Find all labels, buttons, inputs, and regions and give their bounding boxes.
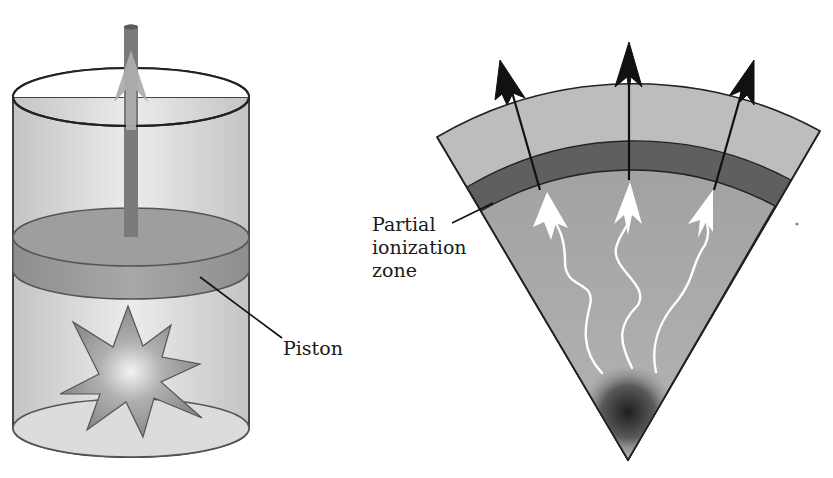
zone-label-line-1: Partial <box>372 213 467 236</box>
stellar-wedge-illustration <box>437 42 820 460</box>
outgoing-arrowhead-middle-icon <box>615 42 642 90</box>
zone-label-line-2: ionization <box>372 236 467 259</box>
piston-label: Piston <box>283 337 343 360</box>
partial-ionization-zone-label: Partial ionization zone <box>372 213 467 282</box>
outgoing-arrowhead-left-icon <box>495 60 525 105</box>
core-glow <box>566 366 690 458</box>
zone-label-line-3: zone <box>372 259 467 282</box>
cylinder-piston-illustration <box>13 25 282 458</box>
